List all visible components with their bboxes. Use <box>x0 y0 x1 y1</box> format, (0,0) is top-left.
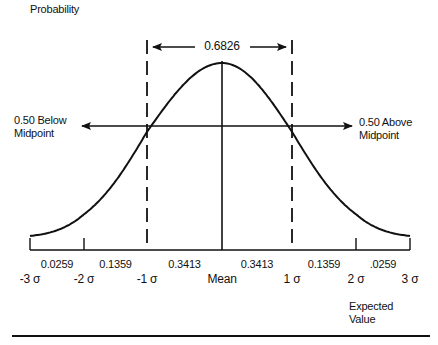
left-annotation-line1: 0.50 Below <box>14 114 66 127</box>
right-annotation: 0.50 Above Midpoint <box>359 116 412 142</box>
left-annotation-line2: Midpoint <box>14 127 66 140</box>
axis-tick-label: -3 σ <box>20 273 41 286</box>
left-annotation: 0.50 Below Midpoint <box>14 114 66 140</box>
span-probability-label: 0.6826 <box>200 40 244 53</box>
interval-probability-label: 0.3413 <box>241 258 273 271</box>
right-annotation-line2: Midpoint <box>359 129 412 142</box>
axis-tick-label: 3 σ <box>402 273 419 286</box>
axis-tick-label: -1 σ <box>137 273 158 286</box>
right-annotation-line1: 0.50 Above <box>359 116 412 129</box>
x-axis-label: Expected Value <box>349 300 393 326</box>
axis-tick-label: -2 σ <box>74 273 95 286</box>
interval-probability-label: 0.0259 <box>41 258 73 271</box>
x-axis-label-line2: Value <box>349 313 393 326</box>
axis-tick-label: Mean <box>207 273 236 286</box>
interval-probability-label: .0259 <box>370 258 397 271</box>
interval-probability-label: 0.1359 <box>308 258 340 271</box>
y-axis-label: Probability <box>30 3 79 16</box>
interval-probability-label: 0.3413 <box>168 258 200 271</box>
axis-tick-label: 1 σ <box>284 273 301 286</box>
x-axis-label-line1: Expected <box>349 300 393 313</box>
axis-tick-label: 2 σ <box>348 273 365 286</box>
interval-probability-label: 0.1359 <box>99 258 131 271</box>
bell-curve <box>30 63 410 236</box>
